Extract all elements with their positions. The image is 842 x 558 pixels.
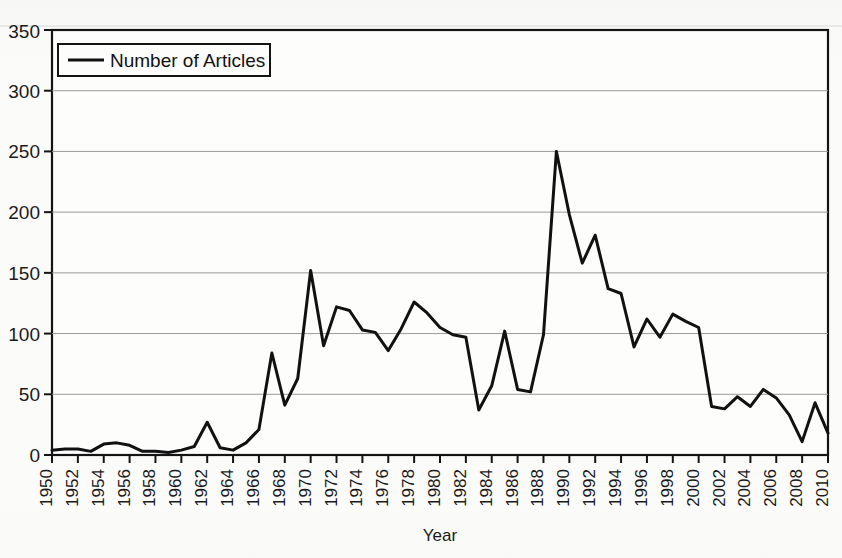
x-tick-label: 1952 [63,469,82,507]
x-tick-label: 1962 [192,469,211,507]
x-tick-label: 1990 [554,469,573,507]
x-tick-label: 1950 [37,469,56,507]
y-tick-label: 350 [8,21,40,42]
line-chart: 0 50 100 150 200 250 300 350 19501952195… [0,0,842,558]
plot-frame [52,30,828,455]
x-axis: 1950195219541956195819601962196419661968… [37,455,832,507]
legend[interactable]: Number of Articles [58,44,270,76]
x-tick-label: 2006 [761,469,780,507]
x-tick-label: 1974 [347,469,366,507]
y-tick-label: 50 [19,384,40,405]
y-tick-label: 250 [8,141,40,162]
x-tick-label: 1966 [244,469,263,507]
x-tick-label: 1988 [528,469,547,507]
y-tick-label: 300 [8,81,40,102]
x-tick-label: 1976 [373,469,392,507]
x-tick-label: 1996 [632,469,651,507]
x-axis-title: Year [423,526,458,545]
y-tick-label: 200 [8,202,40,223]
y-tick-label: 100 [8,324,40,345]
x-tick-label: 1982 [451,469,470,507]
x-tick-label: 1972 [322,469,341,507]
x-tick-label: 1954 [89,469,108,507]
y-axis-tick-labels: 0 50 100 150 200 250 300 350 [8,21,40,466]
x-tick-label: 2002 [710,469,729,507]
x-tick-label: 2010 [813,469,832,507]
x-tick-label: 1998 [658,469,677,507]
x-tick-label: 1980 [425,469,444,507]
x-tick-label: 1968 [270,469,289,507]
page-background: 0 50 100 150 200 250 300 350 19501952195… [0,0,842,558]
x-tick-label: 1994 [606,469,625,507]
x-tick-label: 1978 [399,469,418,507]
x-tick-label: 2004 [735,469,754,507]
x-tick-label: 1956 [115,469,134,507]
y-axis-ticks [44,30,52,455]
x-tick-label: 1970 [296,469,315,507]
x-tick-label: 1960 [166,469,185,507]
x-tick-label: 1986 [503,469,522,507]
x-tick-label: 1992 [580,469,599,507]
y-tick-label: 150 [8,263,40,284]
y-tick-label: 0 [29,445,40,466]
x-tick-label: 2000 [684,469,703,507]
x-tick-label: 1964 [218,469,237,507]
x-tick-label: 1984 [477,469,496,507]
chart-svg: 0 50 100 150 200 250 300 350 19501952195… [0,0,842,558]
legend-label: Number of Articles [110,50,265,71]
x-tick-label: 2008 [787,469,806,507]
x-tick-label: 1958 [140,469,159,507]
